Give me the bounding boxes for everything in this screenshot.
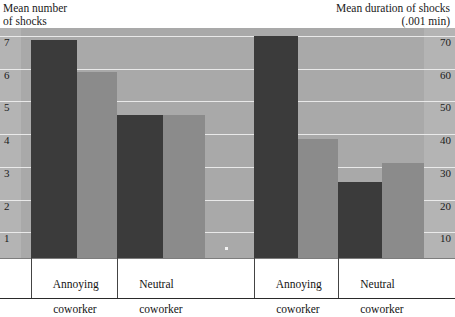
plot-area: 7 6 5 4 3 2 1 70 60 50 40 30 20 10 bbox=[0, 28, 455, 258]
xlabel-line2: coworker bbox=[53, 303, 96, 315]
left-tick-5: 5 bbox=[4, 102, 10, 113]
left-tick-2: 2 bbox=[4, 201, 10, 212]
xlabel-line1: Neutral bbox=[139, 278, 173, 290]
right-axis-caption: Mean duration of shocks (.001 min) bbox=[336, 2, 450, 28]
xlabel-left-annoying: Annoying coworker bbox=[36, 265, 99, 317]
bar-left-annoying-duration bbox=[77, 72, 117, 258]
bar-right-annoying-duration bbox=[298, 139, 338, 258]
xaxis-divider-4 bbox=[338, 258, 339, 298]
xlabel-left-neutral: Neutral coworker bbox=[122, 265, 183, 317]
bar-left-neutral-duration bbox=[163, 115, 205, 258]
right-tick-20: 20 bbox=[440, 201, 451, 212]
stray-mark bbox=[225, 247, 228, 250]
xaxis-divider-2 bbox=[117, 258, 118, 298]
xlabel-right-annoying: Annoying coworker bbox=[259, 265, 322, 317]
left-tick-7: 7 bbox=[4, 37, 10, 48]
gridline-7 bbox=[0, 36, 455, 37]
xlabel-line1: Annoying bbox=[276, 278, 322, 290]
right-tick-40: 40 bbox=[440, 135, 451, 146]
xlabel-line2: coworker bbox=[139, 303, 182, 315]
xlabel-line1: Neutral bbox=[360, 278, 394, 290]
xlabel-line1: Annoying bbox=[53, 278, 99, 290]
bar-left-neutral-number bbox=[117, 115, 163, 258]
x-axis-label-band: Annoying coworker Neutral coworker Annoy… bbox=[0, 258, 455, 307]
right-tick-10: 10 bbox=[440, 233, 451, 244]
left-axis-caption: Mean number of shocks bbox=[3, 2, 67, 28]
left-tick-1: 1 bbox=[4, 233, 10, 244]
right-tick-30: 30 bbox=[440, 168, 451, 179]
right-tick-60: 60 bbox=[440, 70, 451, 81]
bar-right-neutral-number bbox=[338, 182, 382, 258]
left-tick-3: 3 bbox=[4, 168, 10, 179]
xlabel-line2: coworker bbox=[276, 303, 319, 315]
bar-right-annoying-number bbox=[254, 36, 298, 258]
xaxis-divider-1 bbox=[31, 258, 32, 298]
xlabel-line2: coworker bbox=[360, 303, 403, 315]
bar-right-neutral-duration bbox=[382, 163, 424, 258]
plot-baseline bbox=[0, 258, 455, 259]
left-tick-6: 6 bbox=[4, 70, 10, 81]
bar-left-annoying-number bbox=[31, 40, 77, 258]
right-tick-50: 50 bbox=[440, 102, 451, 113]
xlabel-right-neutral: Neutral coworker bbox=[343, 265, 404, 317]
left-tick-4: 4 bbox=[4, 135, 10, 146]
xaxis-divider-3 bbox=[254, 258, 255, 298]
right-tick-70: 70 bbox=[440, 37, 451, 48]
